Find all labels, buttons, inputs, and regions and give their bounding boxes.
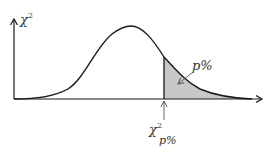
critical-value-subscript: p% [159, 134, 177, 147]
chi-square-diagram: χ2 p% χ2 p% [0, 0, 276, 153]
y-axis-label: χ2 [19, 11, 33, 27]
density-curve [14, 26, 252, 99]
tail-probability-label: p% [192, 58, 213, 73]
